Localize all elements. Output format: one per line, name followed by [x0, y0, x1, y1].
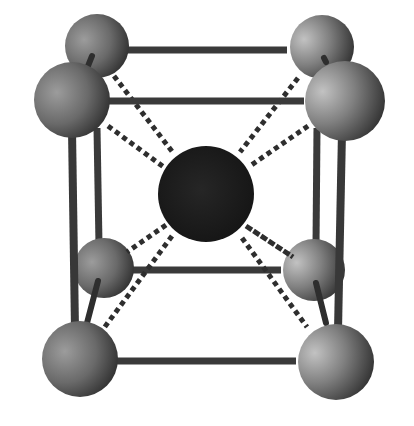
rod-front-right-vertical	[338, 132, 342, 330]
bond-to-front-top-left	[108, 126, 165, 168]
atom-front-top-right	[305, 61, 385, 141]
rod-front-left-vertical	[72, 130, 75, 330]
atom-front-bottom-right	[298, 324, 374, 400]
atom-front-top-left	[34, 62, 110, 138]
atom-back-bottom-left	[74, 238, 134, 298]
rod-top-right-connector	[324, 58, 326, 62]
atom-front-bottom-left	[42, 321, 118, 397]
rod-back-left-vertical	[97, 128, 99, 245]
atom-body-center	[158, 146, 254, 242]
bcc-unit-cell-figure: Body-centered cubic unit cell	[0, 0, 414, 426]
rod-back-right-vertical	[316, 128, 317, 245]
bond-to-back-bottom-left	[127, 225, 166, 252]
bond-to-back-top-right	[240, 78, 298, 152]
crystal-structure-diagram	[0, 0, 414, 426]
rod-top-left-connector	[88, 56, 92, 66]
bond-to-back-top-left	[114, 76, 174, 154]
